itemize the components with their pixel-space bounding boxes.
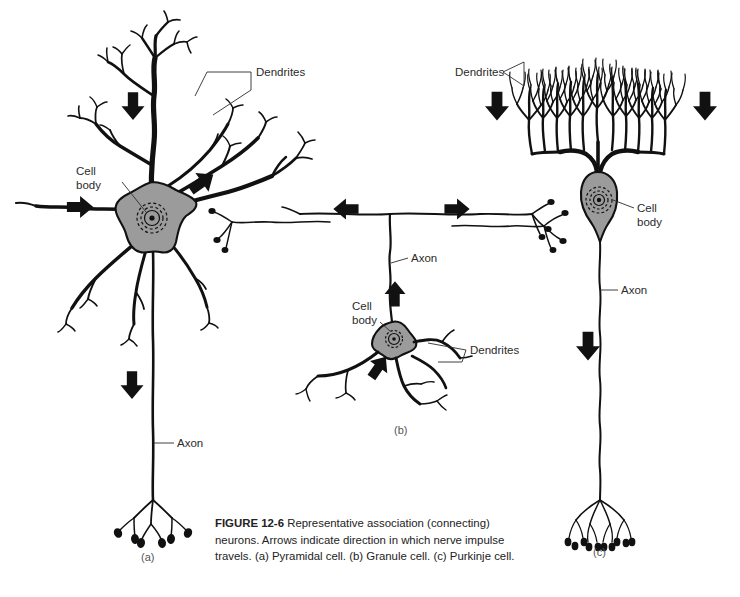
panel-letter-a: (a) xyxy=(141,551,154,563)
label-c-axon-text: Axon xyxy=(621,284,647,296)
panel-letter-b: (b) xyxy=(394,424,407,436)
label-c-cell-body-line2: body xyxy=(637,216,662,228)
label-b-dendrites-text: Dendrites xyxy=(470,344,519,356)
figure-caption: FIGURE 12-6 Representative association (… xyxy=(215,515,515,565)
neuron-figure-illustration: Dendrites Cell body Axon (a) xyxy=(0,0,740,597)
label-b-axon-text: Axon xyxy=(411,252,437,264)
label-b-cell-body-line2: body xyxy=(352,314,377,326)
panel-letter-c: (c) xyxy=(593,546,606,558)
label-a-dendrites-text: Dendrites xyxy=(256,66,305,78)
label-c-dendrites-text: Dendrites xyxy=(455,66,504,78)
label-b-cell-body-line1: Cell xyxy=(352,300,372,312)
label-c-cell-body-line1: Cell xyxy=(637,202,657,214)
figure-container: Dendrites Cell body Axon (a) xyxy=(0,0,740,597)
label-a-cell-body-line2: body xyxy=(76,179,101,191)
label-a-cell-body-line1: Cell xyxy=(76,165,96,177)
figure-number: FIGURE 12-6 xyxy=(215,517,284,529)
label-a-axon-text: Axon xyxy=(177,437,203,449)
